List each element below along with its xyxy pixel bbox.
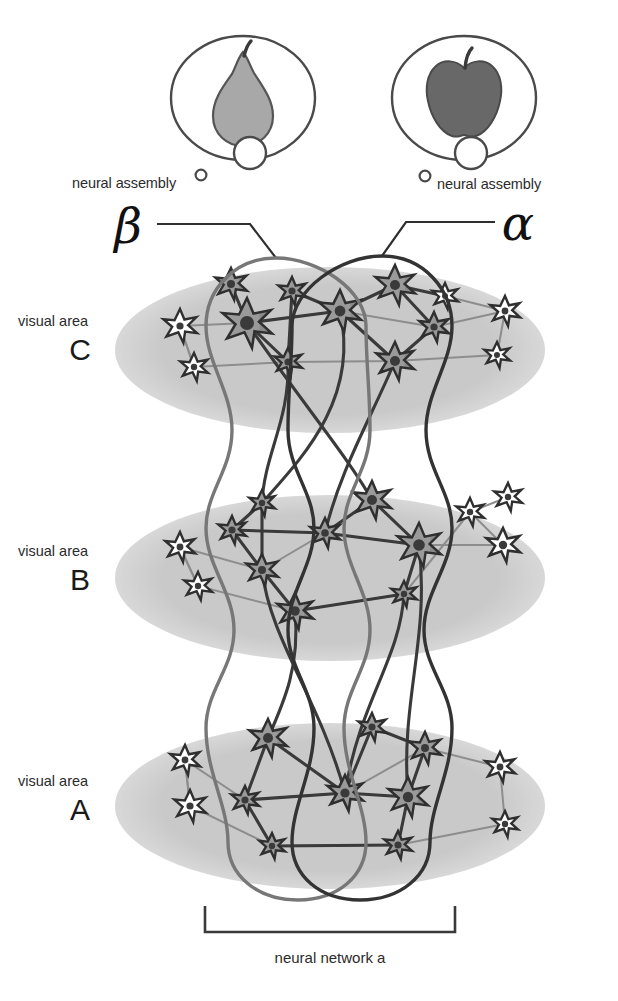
assembly-symbol-beta: β — [112, 198, 142, 254]
visual-area-word-c: visual area — [18, 313, 89, 329]
neuron-nucleus — [394, 841, 401, 848]
bubble-tail-small-apple — [420, 171, 431, 182]
bubble-tail-large-pear — [234, 137, 266, 169]
neuron-nucleus — [241, 796, 248, 803]
apple-body-icon — [427, 61, 502, 136]
figure-root: neural assembly neural assembly β α visu… — [0, 0, 618, 1001]
neuron-nucleus — [368, 723, 375, 730]
neuron-nucleus — [335, 306, 346, 317]
neuron-nucleus — [430, 323, 437, 330]
neuron-nucleus — [186, 802, 193, 809]
bubble-tail-large-apple — [455, 137, 487, 169]
neural-assembly-label-beta: neural assembly — [72, 175, 177, 191]
neuron-nucleus — [227, 280, 235, 288]
neuron-nucleus — [340, 788, 349, 797]
neuron-nucleus — [367, 495, 377, 505]
neuron-nucleus — [240, 316, 254, 330]
neuron-nucleus — [497, 764, 504, 771]
visual-area-ellipse-b — [115, 495, 545, 661]
neuron-nucleus — [505, 494, 511, 500]
visual-area-letter-b: B — [70, 563, 90, 596]
neuron-nucleus — [263, 733, 273, 743]
visual-area-letter-a: A — [70, 793, 90, 826]
neuron-nucleus — [502, 821, 508, 827]
neuron-nucleus — [177, 544, 184, 551]
neuron-nucleus — [258, 566, 266, 574]
visual-area-word-a: visual area — [18, 773, 89, 789]
neuron-nucleus — [259, 500, 265, 506]
neuron-nucleus — [413, 539, 425, 551]
neuron-nucleus — [403, 792, 413, 802]
neuron-nucleus — [390, 280, 400, 290]
neuron-nucleus — [502, 308, 509, 315]
bubble-tail-small-pear — [196, 170, 207, 181]
neuron-nucleus — [499, 541, 507, 549]
neuron-nucleus — [269, 843, 275, 849]
neuron-nucleus — [182, 757, 189, 764]
neuron-nucleus — [191, 364, 197, 370]
neuron-nucleus — [228, 526, 235, 533]
neural-assembly-diagram: neural assembly neural assembly β α visu… — [0, 0, 618, 1001]
neuron-nucleus — [467, 509, 473, 515]
visual-area-word-b: visual area — [18, 543, 89, 559]
neuron-nucleus — [421, 744, 429, 752]
neuron-nucleus — [321, 529, 329, 537]
neuron-nucleus — [176, 322, 183, 329]
neuron-nucleus — [494, 352, 500, 358]
neuron-nucleus — [195, 583, 201, 589]
neural-network-caption: neural network a — [275, 949, 387, 966]
visual-area-letter-c: C — [69, 333, 91, 366]
neuron-nucleus — [401, 591, 407, 597]
neural-assembly-label-alpha: neural assembly — [437, 176, 542, 192]
neuron-nucleus — [390, 356, 400, 366]
neuron-nucleus — [288, 287, 295, 294]
assembly-symbol-alpha: α — [502, 195, 534, 251]
